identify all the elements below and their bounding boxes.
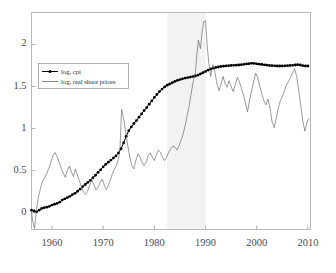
series-marker [189,76,192,79]
series-marker [86,181,89,184]
series-marker [138,116,141,119]
series-marker [97,171,100,174]
series-marker [204,70,207,73]
series-marker [45,206,48,209]
x-tick-label: 1980 [129,238,179,249]
series-marker [71,193,74,196]
series-marker [196,74,199,77]
series-marker [58,201,61,204]
x-tick-label: 2000 [232,238,282,249]
series-marker [235,64,238,67]
series-marker [220,65,223,68]
series-marker [291,64,294,67]
series-marker [284,64,287,67]
series-marker [107,161,110,164]
series-marker [248,62,251,65]
series-marker [186,76,189,79]
series-marker [289,64,292,67]
series-marker [271,64,274,67]
series-marker [278,65,281,68]
series-marker [266,64,269,67]
series-marker [307,65,310,68]
series-marker [66,196,69,199]
series-marker [43,206,46,209]
series-marker [179,78,182,81]
series-marker [168,83,171,86]
y-tick-label: 1.5 [13,81,26,92]
y-tick-label: 2 [21,38,26,49]
series-marker [140,112,143,115]
x-tick-label: 1960 [27,238,77,249]
series-marker [225,64,228,67]
series-marker [299,64,302,67]
legend-label-log-cpi: log, cpi [61,68,81,75]
series-marker [127,129,130,132]
series-marker [250,62,253,65]
series-marker [53,203,56,206]
chart-canvas: log, cpi log, real share prices [0,0,336,273]
x-tick-label: 1990 [181,238,231,249]
series-marker [166,84,169,87]
series-marker [109,159,112,162]
series-marker [94,174,97,177]
y-tick-label: 1 [21,123,26,134]
series-marker [260,63,263,66]
series-marker [40,207,43,210]
series-marker [61,199,64,202]
series-marker [74,192,77,195]
series-marker [38,209,41,212]
series-marker [30,209,33,212]
series-marker [227,64,230,67]
series-marker [161,88,164,91]
series-marker [240,63,243,66]
legend-swatch-marker-cpi [49,70,52,73]
series-marker [255,62,258,65]
series-marker [150,99,153,102]
series-marker [99,168,102,171]
series-marker [294,64,297,67]
series-marker [304,65,307,68]
series-marker [63,197,66,200]
series-marker [102,165,105,168]
series-marker [258,63,261,66]
series-marker [245,63,248,66]
series-marker [243,63,246,66]
series-marker [130,125,133,128]
series-marker [296,63,299,66]
series-marker [68,195,71,198]
series-marker [207,69,210,72]
series-marker [276,65,279,68]
series-marker [230,64,233,67]
series-marker [148,103,151,106]
series-marker [237,64,240,67]
series-marker [173,80,176,83]
series-marker [51,204,54,207]
series-marker [191,75,194,78]
series-marker [286,64,289,67]
y-tick-label: 0 [21,207,26,218]
series-marker [48,205,51,208]
series-marker [84,183,87,186]
series-marker [214,66,217,69]
x-tick-label: 2010 [283,238,333,249]
legend-label-log-real-share-prices: log, real share prices [61,78,116,85]
series-marker [184,77,187,80]
series-marker [171,81,174,84]
series-marker [281,65,284,68]
chart-legend[interactable]: log, cpi log, real share prices [39,64,129,89]
series-marker [145,106,148,109]
series-marker [253,62,256,65]
series-marker [301,64,304,67]
series-marker [268,64,271,67]
series-marker [273,64,276,67]
x-tick-label: 1970 [78,238,128,249]
series-marker [217,66,220,69]
series-marker [76,190,79,193]
series-marker [156,93,159,96]
series-marker [112,157,115,160]
series-marker [181,77,184,80]
series-marker [92,176,95,179]
series-marker [104,163,107,166]
series-marker [263,63,266,66]
series-marker [163,86,166,89]
